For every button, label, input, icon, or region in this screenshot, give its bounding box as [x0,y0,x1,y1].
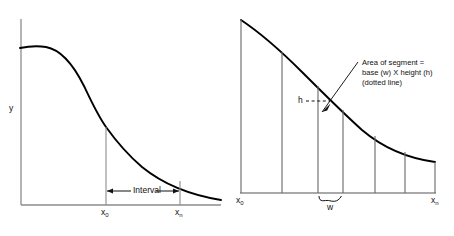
annotation-line-2: base (w) X height (h) [362,68,432,78]
diagram-canvas [0,0,454,236]
right-xn-label: xn [431,196,439,205]
left-panel-group [20,19,221,205]
annotation-line-1: Area of segment = [362,58,432,68]
left-xn-subscript: n [179,212,182,218]
annotation-pointer-line [322,62,358,112]
left-x0-subscript: 0 [105,212,108,218]
height-label: h [298,96,303,105]
figure-container: y Interval x0 xn h w Area of segment = b… [0,0,454,236]
interval-arrowhead-left [107,188,113,193]
width-brace [319,196,342,201]
left-xn-label: xn [175,208,183,217]
right-decay-curve [241,20,435,162]
right-x0-subscript: 0 [240,200,243,206]
left-sigmoid-curve [20,46,221,200]
annotation-line-3: (dotted line) [362,78,432,88]
right-panel-group [240,20,436,201]
segment-area-annotation: Area of segment = base (w) X height (h) … [362,58,432,89]
left-y-axis-label: y [9,104,13,113]
width-label: w [327,203,333,212]
right-xn-subscript: n [435,200,438,206]
right-x0-label: x0 [236,196,244,205]
left-x0-label: x0 [101,208,109,217]
interval-label: Interval [133,186,161,195]
